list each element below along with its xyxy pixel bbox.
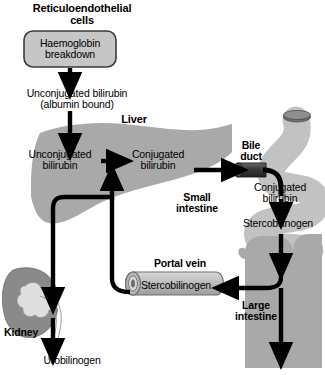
label-bile-duct: Bile duct [229, 140, 273, 163]
label-conjugated-bilirubin-small-intestine: Conjugated bilirubin [240, 182, 320, 205]
bile-duct-cylinder [233, 163, 266, 177]
label-large-intestine: Large intestine [222, 300, 290, 323]
label-stercobilinogen-portal-vein: Stercobilinogen [128, 280, 224, 291]
label-kidney: Kidney [4, 327, 66, 338]
label-unconjugated-bilirubin-albumin-bound: Unconjugated bilirubin (albumin bound) [2, 88, 152, 111]
bilirubin-metabolism-diagram: Reticuloendothelial cells Haemoglobin br… [0, 0, 325, 375]
label-conjugated-bilirubin-liver: Conjugated bilirubin [118, 149, 198, 172]
label-liver: Liver [98, 114, 170, 126]
label-unconjugated-bilirubin-liver: Unconjugated bilirubin [18, 149, 102, 172]
label-urobilinogen: Urobilinogen [26, 355, 118, 366]
label-small-intestine: Small intestine [164, 192, 230, 215]
label-reticuloendothelial-cells: Reticuloendothelial cells [8, 3, 156, 27]
label-haemoglobin-breakdown: Haemoglobin breakdown [26, 38, 114, 61]
label-portal-vein: Portal vein [136, 258, 224, 269]
label-stercobilinogen-small-intestine: Stercobilinogen [232, 218, 324, 229]
